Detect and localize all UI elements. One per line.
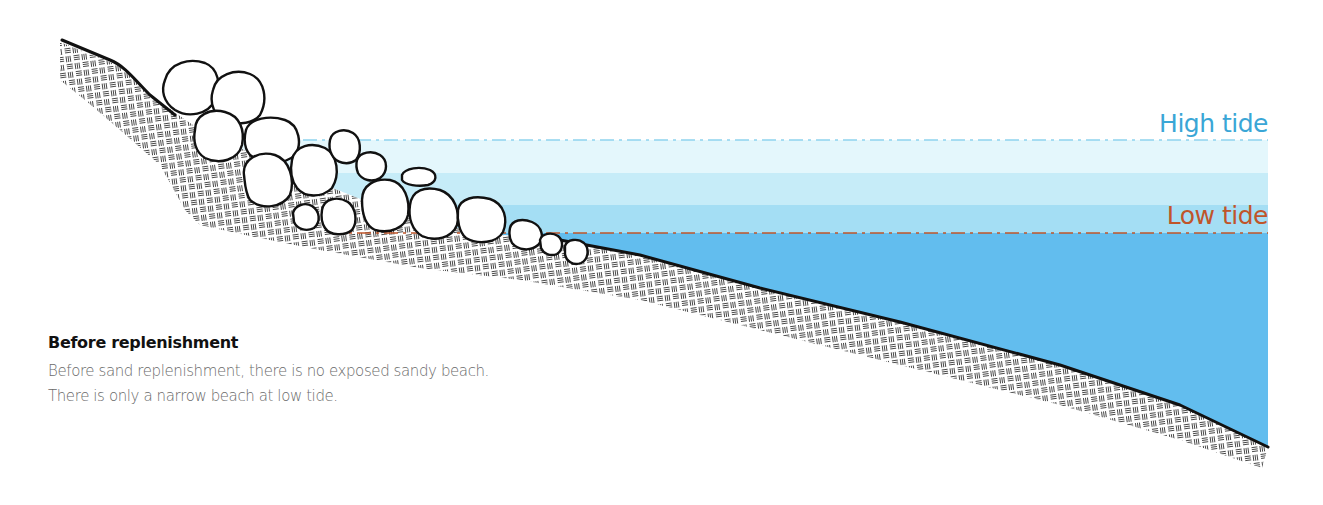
caption-title: Before replenishment [48,333,489,352]
beach-cross-section-diagram [0,0,1323,505]
boulder [356,152,386,180]
boulder [163,61,218,114]
boulder [194,111,243,161]
boulder [540,234,562,255]
boulder [321,199,355,235]
caption-line: Before sand replenishment, there is no e… [48,362,489,380]
boulder [458,197,505,242]
boulder [244,154,292,207]
caption-line: There is only a narrow beach at low tide… [48,387,489,405]
caption: Before replenishment Before sand repleni… [48,333,489,412]
boulder [410,189,458,239]
low-tide-label: Low tide [1167,203,1268,228]
boulder [509,220,541,249]
boulder [565,240,588,264]
boulder [329,130,359,163]
high-tide-label: High tide [1159,111,1268,136]
boulder [293,204,319,230]
boulder [402,168,435,186]
boulder [362,180,408,232]
